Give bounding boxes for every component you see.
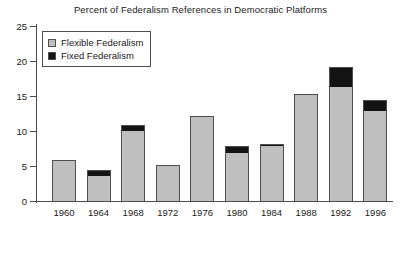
bar-segment-flexible xyxy=(87,176,111,201)
legend-label: Fixed Federalism xyxy=(61,50,134,61)
bar-1996[interactable] xyxy=(363,100,387,201)
bar-segment-flexible xyxy=(294,94,318,201)
y-axis-tick xyxy=(30,166,36,167)
legend-item-fixed[interactable]: Fixed Federalism xyxy=(48,49,143,62)
bar-segment-flexible xyxy=(156,166,180,201)
x-axis-label-1960: 1960 xyxy=(53,207,74,218)
bar-1976[interactable] xyxy=(190,116,214,201)
y-axis-label: 5 xyxy=(22,161,27,172)
x-axis-label-1988: 1988 xyxy=(296,207,317,218)
y-axis-label: 20 xyxy=(16,56,27,67)
y-axis-tick xyxy=(30,96,36,97)
bar-segment-flexible xyxy=(363,111,387,201)
x-axis-line xyxy=(36,201,393,202)
bar-1984[interactable] xyxy=(260,144,284,201)
x-axis-label-1968: 1968 xyxy=(123,207,144,218)
y-axis-tick xyxy=(30,26,36,27)
bar-segment-flexible xyxy=(121,131,145,201)
y-axis-label: 25 xyxy=(16,21,27,32)
x-axis-label-1964: 1964 xyxy=(88,207,109,218)
x-axis-label-1992: 1992 xyxy=(330,207,351,218)
y-axis-label: 0 xyxy=(22,196,27,207)
chart-container: Percent of Federalism References in Demo… xyxy=(0,0,401,255)
x-axis-label-1976: 1976 xyxy=(192,207,213,218)
legend-label: Flexible Federalism xyxy=(61,37,143,48)
x-axis-label-1980: 1980 xyxy=(226,207,247,218)
x-axis-label-1984: 1984 xyxy=(261,207,282,218)
y-axis-label: 10 xyxy=(16,126,27,137)
bar-1968[interactable] xyxy=(121,125,145,201)
x-axis-label-1972: 1972 xyxy=(157,207,178,218)
bar-1980[interactable] xyxy=(225,146,249,201)
chart-legend: Flexible FederalismFixed Federalism xyxy=(42,31,151,67)
legend-swatch-fixed-icon xyxy=(48,52,56,60)
bar-segment-flexible xyxy=(260,146,284,201)
bar-segment-flexible xyxy=(329,87,353,201)
bar-1988[interactable] xyxy=(294,94,318,201)
y-axis-label: 15 xyxy=(16,91,27,102)
bar-segment-fixed xyxy=(329,67,353,87)
bar-segment-fixed xyxy=(363,100,387,111)
bar-segment-flexible xyxy=(225,153,249,201)
bar-segment-flexible xyxy=(52,160,76,201)
bar-segment-fixed xyxy=(225,146,249,153)
x-axis-label-1996: 1996 xyxy=(365,207,386,218)
bar-segment-flexible xyxy=(190,116,214,201)
y-axis-tick xyxy=(30,131,36,132)
bar-1972[interactable] xyxy=(156,165,180,201)
bar-1992[interactable] xyxy=(329,67,353,201)
bar-1960[interactable] xyxy=(52,160,76,201)
legend-item-flexible[interactable]: Flexible Federalism xyxy=(48,36,143,49)
bar-1964[interactable] xyxy=(87,170,111,201)
chart-title: Percent of Federalism References in Demo… xyxy=(0,4,401,15)
y-axis-tick xyxy=(30,201,36,202)
y-axis-tick xyxy=(30,61,36,62)
legend-swatch-flexible-icon xyxy=(48,39,56,47)
